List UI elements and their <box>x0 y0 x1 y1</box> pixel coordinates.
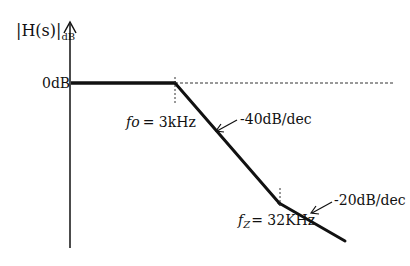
minus40-slope-label: -40dB/dec <box>240 111 312 127</box>
zero-db-label: 0dB <box>42 75 70 91</box>
fz-label: fZ= 32KHz <box>237 212 315 230</box>
minus40-asymptote <box>175 83 280 204</box>
bode-plot-canvas: |H(s)|dB 0dB fo= 3kHz -40dB/dec fZ= 32KH… <box>0 0 410 266</box>
fo-label: fo= 3kHz <box>125 114 196 130</box>
bode-plot-diagram: |H(s)|dB 0dB fo= 3kHz -40dB/dec fZ= 32KH… <box>0 0 410 266</box>
minus20-slope-label: -20dB/dec <box>334 192 406 208</box>
y-axis-label: |H(s)|dB <box>16 21 75 42</box>
